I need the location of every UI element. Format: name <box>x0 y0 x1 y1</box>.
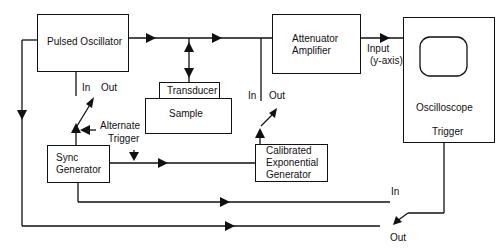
sample-label: Sample <box>169 108 203 120</box>
pulsed-oscillator-label: Pulsed Oscillator <box>47 36 122 48</box>
attenuator-label: Attenuator <box>292 33 338 45</box>
calibrated-exponential-generator-block: Calibrated Exponential Generator <box>255 144 328 182</box>
exponential-label: Exponential <box>266 157 318 169</box>
transducer-label: Transducer <box>167 85 217 97</box>
po-in-label: In <box>82 82 90 94</box>
trigger-out-label: Out <box>390 232 406 244</box>
po-out-label: Out <box>101 82 117 94</box>
attenuator-out-label: Out <box>269 90 285 102</box>
sample-block: Sample <box>145 98 232 134</box>
alternate-trigger-label-1: Alternate <box>100 120 140 132</box>
generator-label-2: Generator <box>266 169 311 181</box>
oscilloscope-block: Oscilloscope Trigger <box>403 17 495 143</box>
trigger-in-label: In <box>391 186 399 198</box>
sync-label: Sync <box>56 152 78 164</box>
generator-label: Generator <box>56 164 101 176</box>
attenuator-amplifier-block: Attenuator Amplifier <box>272 14 361 74</box>
oscilloscope-label: Oscilloscope <box>416 102 473 114</box>
pulsed-oscillator-block: Pulsed Oscillator <box>37 14 129 72</box>
input-label: Input <box>367 43 389 55</box>
transducer-block: Transducer <box>159 82 220 99</box>
alternate-trigger-label-2: Trigger <box>108 133 139 145</box>
amplifier-label: Amplifier <box>292 45 331 57</box>
sync-generator-block: Sync Generator <box>47 145 110 183</box>
calibrated-label: Calibrated <box>266 145 312 157</box>
oscilloscope-trigger-label: Trigger <box>432 126 463 138</box>
y-axis-label: (y-axis) <box>370 55 403 67</box>
attenuator-in-label: In <box>248 90 256 102</box>
block-diagram: Pulsed Oscillator Transducer Sample Atte… <box>0 0 498 250</box>
